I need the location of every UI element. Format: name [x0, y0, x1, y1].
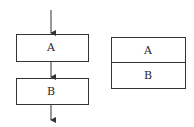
diagram-canvas: A B A B: [0, 0, 194, 127]
sequential-flowchart: A B: [17, 10, 89, 120]
nested-structure: A B: [112, 38, 186, 89]
flow-box-a-label: A: [46, 41, 56, 54]
flow-box-b-label: B: [47, 85, 55, 98]
nested-row-b-label: B: [144, 69, 152, 82]
nested-row-a-label: A: [143, 44, 153, 57]
flow-box-b: B: [17, 79, 89, 105]
flow-box-a: A: [17, 35, 89, 62]
